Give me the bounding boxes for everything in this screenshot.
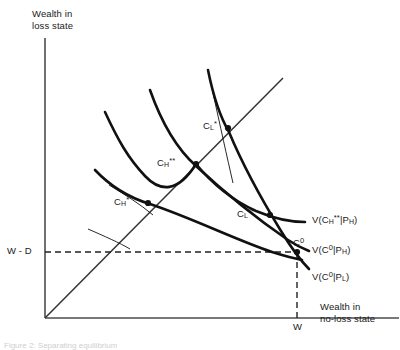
point-label-c-h-double-star: CH** — [157, 156, 175, 170]
marker-c-zero — [294, 249, 300, 255]
diagram-canvas — [0, 0, 400, 350]
point-label-c-h-double-star-sup: ** — [169, 156, 175, 165]
point-label-c-zero-sup: 0 — [300, 236, 304, 245]
point-label-c-zero-base: C — [293, 237, 300, 248]
point-label-c-l-double-star-base: C — [237, 208, 244, 219]
y-axis-title-line1: Wealth in — [32, 8, 73, 20]
point-label-c-h-star-sup: * — [126, 195, 129, 204]
curve-label-2-mid: |P — [333, 244, 342, 255]
curve-label-1-prefix: V(C — [312, 214, 329, 225]
point-label-c-h-star-base: C — [114, 196, 121, 207]
curve-label-3-suffix: ) — [346, 271, 349, 282]
y-axis-title-line2: loss state — [32, 20, 73, 32]
marker-c-l-star — [225, 125, 231, 131]
curve-label-2-prefix: V(C — [312, 244, 329, 255]
x-axis-title: Wealth in no-loss state — [320, 301, 375, 325]
point-label-c-l-star-sup: * — [214, 119, 217, 128]
curve-label-v-c0-ph: V(C0|PH) — [312, 243, 350, 257]
curve-label-v-ch-double-star-ph: V(CH**|PH) — [312, 213, 357, 227]
dashed-guides-group — [45, 252, 297, 318]
point-label-c-l-double-star-sup: ** — [248, 207, 254, 216]
marker-c-h-double-star — [193, 161, 199, 167]
marker-c-h-star — [145, 200, 151, 206]
indifference-curves-group — [95, 70, 309, 269]
point-label-c-l-double-star: CL** — [237, 207, 254, 221]
certainty-line-45deg — [45, 78, 283, 318]
curve-label-1-mid: |P — [340, 214, 349, 225]
x-axis-title-line1: Wealth in — [320, 301, 375, 313]
point-label-c-h-double-star-base: C — [157, 157, 164, 168]
y-tick-label-w-minus-d: W - D — [7, 245, 32, 257]
curve-label-1-suffix: ) — [354, 214, 357, 225]
x-axis-title-line2: no-loss state — [320, 313, 375, 325]
curve-label-2-suffix: ) — [347, 244, 350, 255]
marker-c-l-double-star — [267, 212, 273, 218]
insurance-equilibrium-figure: Wealth in loss state Wealth in no-loss s… — [0, 0, 400, 350]
point-label-c-l-star: CL* — [203, 119, 217, 133]
point-label-c-h-star: CH* — [114, 195, 129, 209]
curve-label-3-mid: |P — [333, 271, 342, 282]
y-axis-title: Wealth in loss state — [32, 8, 73, 32]
curve-label-v-c0-pl: V(C0|PL) — [312, 270, 349, 284]
curve-label-3-prefix: V(C — [312, 271, 329, 282]
point-label-c-l-star-base: C — [203, 120, 210, 131]
point-label-c-zero: C0 — [293, 236, 304, 249]
x-tick-label-w: W — [293, 321, 302, 333]
tangency-mark-upper — [213, 93, 233, 183]
curve-v-c0-ph — [150, 90, 309, 251]
figure-caption: Figure 2: Separating equilibrium — [4, 341, 117, 350]
